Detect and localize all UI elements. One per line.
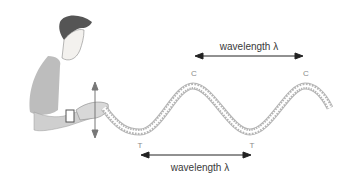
top-wavelength-label: wavelength λ xyxy=(220,41,278,52)
crest-label-2: C xyxy=(303,69,309,78)
trough-label-2: T xyxy=(250,141,255,150)
top-wavelength-arrow xyxy=(195,53,303,59)
trough-label-1: T xyxy=(138,141,143,150)
bottom-wavelength-label: wavelength λ xyxy=(171,162,229,173)
person-figure xyxy=(30,16,109,131)
spring-wave xyxy=(104,86,330,132)
bottom-wavelength-arrow xyxy=(141,152,251,158)
wave-diagram xyxy=(0,0,351,181)
crest-label-1: C xyxy=(191,69,197,78)
